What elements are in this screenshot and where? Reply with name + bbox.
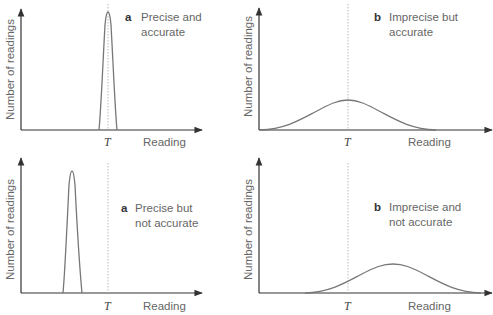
panel-precise-accurate: Number of readings T Reading a Precise a… [4, 4, 202, 149]
panel-title-line2: not accurate [389, 216, 452, 228]
precision-accuracy-diagram: Number of readings T Reading a Precise a… [0, 0, 493, 315]
y-axis-label: Number of readings [4, 179, 16, 280]
distribution-curve [305, 264, 481, 293]
x-axis-label: Reading [408, 300, 451, 312]
y-axis-label: Number of readings [4, 19, 16, 120]
panel-imprecise-accurate: Number of readings T Reading b Imprecise… [242, 4, 492, 149]
x-axis-label: Reading [143, 300, 186, 312]
panel-letter: b [374, 201, 381, 213]
true-value-label: T [344, 135, 352, 149]
panel-title-line1: Precise and [141, 11, 202, 23]
panel-title-line2: accurate [141, 26, 185, 38]
panel-title-line1: Imprecise and [389, 201, 461, 213]
y-axis-label: Number of readings [242, 179, 254, 280]
panel-precise-not-accurate: Number of readings T Reading a Precise b… [4, 158, 202, 313]
true-value-label: T [104, 299, 112, 313]
panel-imprecise-not-accurate: Number of readings T Reading b Imprecise… [242, 158, 492, 313]
panel-title-line1: Precise but [135, 202, 193, 214]
y-axis-label: Number of readings [242, 16, 254, 117]
panel-letter: a [125, 11, 132, 23]
distribution-curve [63, 171, 82, 293]
panel-title-line2: not accurate [135, 217, 198, 229]
panel-title-line2: accurate [389, 26, 433, 38]
x-axis-label: Reading [143, 136, 186, 148]
true-value-label: T [344, 299, 352, 313]
panel-title-line1: Imprecise but [389, 11, 459, 23]
true-value-label: T [104, 135, 112, 149]
panel-letter: a [121, 202, 128, 214]
x-axis-label: Reading [408, 136, 451, 148]
panel-letter: b [374, 11, 381, 23]
